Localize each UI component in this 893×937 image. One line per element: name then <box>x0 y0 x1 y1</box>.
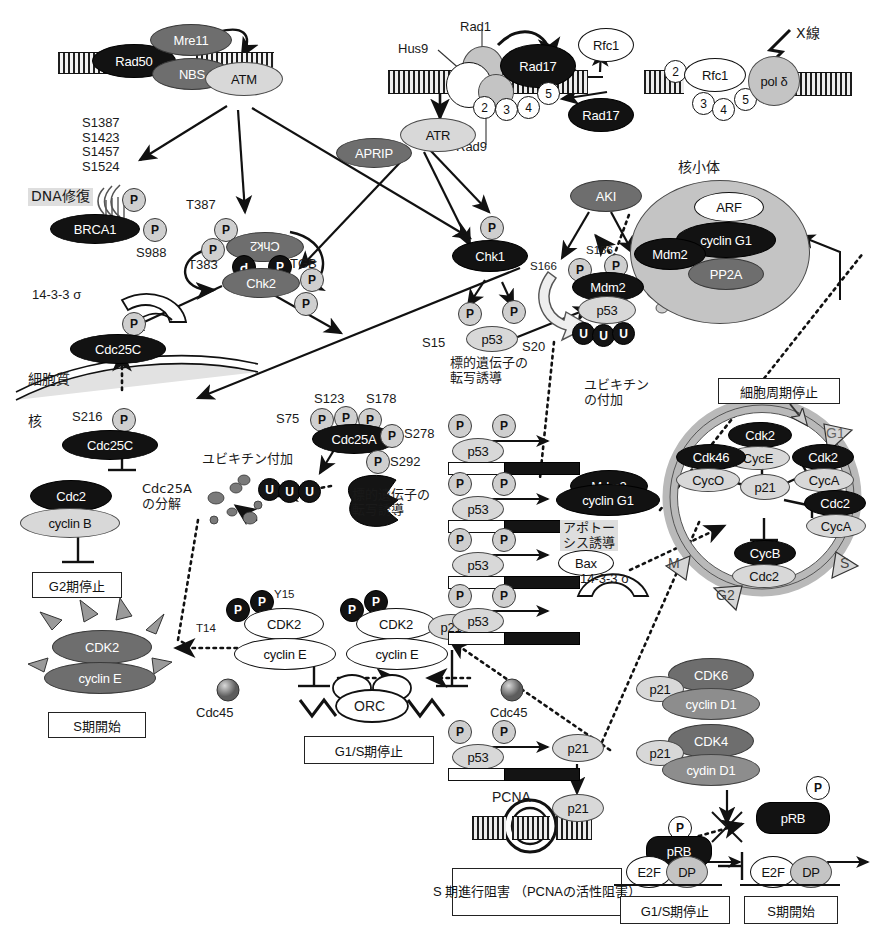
p53-target3-label: p53 <box>467 558 488 573</box>
cdc25a-degradation-label: Cdc25A の分解 <box>142 482 192 511</box>
p53-target1-label: p53 <box>467 444 488 459</box>
cdc25c-nucleus-label: Cdc25C <box>87 438 133 453</box>
p21-cdk6-label: p21 <box>649 682 670 697</box>
nucleolus-label: 核小体 <box>678 160 720 176</box>
cyclin-d1-cdk6-node: cyclin D1 <box>662 688 760 720</box>
cyclin-e-active-node: cyclin E <box>44 662 156 694</box>
rad17-label: Rad17 <box>519 59 556 74</box>
cdc2-label: Cdc2 <box>56 489 86 504</box>
gene-open-4 <box>448 632 506 645</box>
cdk2-active-label: CDK2 <box>85 640 119 655</box>
dna-pcna-mid <box>512 816 550 840</box>
rad50-label: Rad50 <box>115 54 152 69</box>
atr-label: ATR <box>426 128 450 143</box>
p21-cdk4-label: p21 <box>649 746 670 761</box>
rad17-free-label: Rad17 <box>582 108 619 123</box>
cyclin-e-inhibited-label: cyclin E <box>263 647 306 662</box>
p21-hub-label: p21 <box>567 741 588 756</box>
ring-cdc2b-label: Cdc2 <box>749 569 779 584</box>
rfc-subunit-5: 5 <box>537 82 560 105</box>
cdc25a-site-s178: S178 <box>366 392 396 407</box>
phase-s-label: S <box>840 556 849 572</box>
ring-p21-node: p21 <box>740 474 790 500</box>
p53-target3-node: p53 <box>452 552 504 578</box>
orc-label: ORC <box>354 699 385 715</box>
phase-g1-label: G1 <box>826 426 845 442</box>
atr-node: ATR <box>400 118 476 152</box>
rad17-free-node: Rad17 <box>568 98 634 132</box>
cyclin-e-p21-label: cyclin E <box>375 647 418 662</box>
cdc25c-nucleus-node: Cdc25C <box>62 430 158 460</box>
chk2-label-bottom: Chk2 <box>246 276 276 291</box>
ubiquitin-3: U <box>612 322 635 345</box>
hus9-label: Hus9 <box>398 42 428 57</box>
cdc25a-site-s292: S292 <box>390 455 420 470</box>
cdc25c-site-s216: S216 <box>72 410 102 425</box>
aprip-label: APRIP <box>355 146 393 161</box>
cdk2-site-t14: T14 <box>196 622 216 635</box>
cyclin-d1-cdk6-label: cyclin D1 <box>686 697 737 712</box>
aki-node: AKI <box>570 180 642 212</box>
ring-cdk2-cyce-cdk: Cdk2 <box>728 422 792 448</box>
ring-cyce-label: CycE <box>743 451 773 466</box>
prb-gene-line-left <box>614 884 722 886</box>
rfc-subunit-2: 2 <box>473 96 496 119</box>
g1s-arrest-box-orc: G1/S期停止 <box>304 736 434 764</box>
pathway-diagram: Rad50 Mre11 NBS ATM S1387 S1423 S1457 S1… <box>0 0 893 937</box>
prb-free-node: pRB <box>756 802 830 834</box>
p53-target5-label: p53 <box>467 750 488 765</box>
cdc45-label-left: Cdc45 <box>196 706 234 721</box>
ring-cycb-label: CycB <box>750 546 780 561</box>
cyclin-b-node: cyclin B <box>20 508 120 538</box>
cyclin-e-p21-node: cyclin E <box>346 638 448 670</box>
cdk2-active-node: CDK2 <box>52 630 152 664</box>
atm-substrate-sites: S1387 S1423 S1457 S1524 <box>82 116 120 174</box>
nucleus-label: 核 <box>28 414 42 430</box>
cdk6-label: CDK6 <box>694 668 728 683</box>
rfc1-bound-label: Rfc1 <box>702 68 728 83</box>
dp-free-label: DP <box>802 865 820 880</box>
pol-delta-node: pol δ <box>748 56 800 106</box>
ring-cdc2-label: Cdc2 <box>820 496 850 511</box>
chk2-phospho-right: P <box>300 268 324 292</box>
brca1-site-s988: S988 <box>136 246 166 261</box>
p53-target2-label: p53 <box>467 502 488 517</box>
prb-gene-line-right <box>740 884 840 886</box>
cdc25a-site-s123: S123 <box>314 392 344 407</box>
p53-target4-label: p53 <box>467 614 488 629</box>
brca1-label: BRCA1 <box>74 222 116 237</box>
cdc45-label-right: Cdc45 <box>490 706 528 721</box>
ring-cdk2b-label: Cdk2 <box>808 450 838 465</box>
rfc1-subunit-4: 4 <box>712 98 735 121</box>
p53-target4-node: p53 <box>452 608 504 634</box>
ubiquitination-label: ユビキチン の付加 <box>584 378 649 407</box>
ring-cdk46-cyc: CycO <box>676 468 740 492</box>
sigma-label-left: 14-3-3 σ <box>32 288 81 303</box>
chk2-node-bottom: Chk2 <box>222 268 300 298</box>
pcna-label: PCNA <box>492 790 531 806</box>
nbs-label: NBS <box>179 67 205 82</box>
pp2a-node: PP2A <box>688 258 764 290</box>
cdk2-p21-label: CDK2 <box>379 617 413 632</box>
rfc1-free-label: Rfc1 <box>593 38 619 53</box>
cdc25a-site-s75: S75 <box>276 412 299 427</box>
phase-g2-label: G2 <box>716 588 735 604</box>
aprip-node: APRIP <box>336 138 412 168</box>
cyclin-d1-cdk4-node: cydin D1 <box>662 754 760 786</box>
ring-cycab-label: CycA <box>821 519 851 534</box>
p53-site-s20: S20 <box>522 340 545 355</box>
pcna-p21-label: p21 <box>567 801 588 816</box>
cdc25a-ubiquitin-3: U <box>298 480 321 503</box>
chk2-label-top: Chk2 <box>250 240 280 255</box>
p53-target2-phospho-1: P <box>448 472 472 496</box>
chk1-phospho: P <box>480 216 504 240</box>
s-phase-start-box-left: S期開始 <box>48 712 146 738</box>
gene-fill-1 <box>504 462 580 475</box>
p53-target3-phospho-2: P <box>492 528 516 552</box>
brca1-node: BRCA1 <box>50 214 140 244</box>
xray-label: X線 <box>796 26 820 42</box>
ring-cdc2b-node: Cdc2 <box>732 564 796 588</box>
p53-target3-phospho-1: P <box>448 528 472 552</box>
cdc25a-phospho-s278: P <box>380 424 404 448</box>
s-phase-start-box-right: S期開始 <box>744 896 838 924</box>
